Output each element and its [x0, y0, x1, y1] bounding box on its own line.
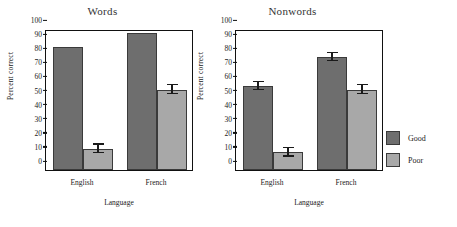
y-tick-label: 40	[225, 100, 237, 109]
error-bar-cap	[357, 84, 368, 85]
bar-good-english	[53, 47, 83, 170]
legend: Good Poor	[386, 128, 454, 172]
y-tick-label: 100	[221, 16, 236, 25]
bar-good-french	[317, 57, 347, 170]
legend-swatch-good	[386, 131, 400, 145]
y-tick-label: 50	[225, 86, 237, 95]
y-tick-label: 20	[35, 128, 47, 137]
plot-area-nonwords: 1009080706050403020100	[235, 30, 383, 171]
y-tick-label: 90	[225, 30, 237, 39]
legend-label-poor: Poor	[408, 156, 423, 165]
y-tick-label: 70	[35, 58, 47, 67]
error-bar-cap	[283, 147, 294, 148]
error-bar-cap	[283, 155, 294, 156]
y-axis-label-words: Percent correct	[6, 52, 15, 100]
y-tick-label: 30	[225, 114, 237, 123]
error-bar-cap	[327, 52, 338, 53]
y-tick-label: 50	[35, 86, 47, 95]
error-bar-cap	[167, 84, 178, 85]
bar-good-english	[243, 86, 273, 170]
error-bar-cap	[253, 81, 264, 82]
error-bar-cap	[93, 143, 104, 144]
y-tick-label: 90	[35, 30, 47, 39]
figure: Words Percent correct 100908070605040302…	[0, 0, 457, 227]
x-axis-label-words: Language	[45, 198, 193, 207]
bar-poor-french	[347, 90, 377, 170]
y-tick-label: 60	[225, 72, 237, 81]
y-tick-label: 10	[225, 142, 237, 151]
x-tick-label-french-nonwords: French	[316, 178, 376, 187]
error-bar-cap	[327, 60, 338, 61]
y-tick-label: 30	[35, 114, 47, 123]
bar-poor-french	[157, 90, 187, 170]
y-tick-label: 70	[225, 58, 237, 67]
y-tick-label: 100	[31, 16, 46, 25]
y-tick-label: 20	[225, 128, 237, 137]
legend-label-good: Good	[408, 134, 426, 143]
error-bar-cap	[167, 93, 178, 94]
bar-good-french	[127, 33, 157, 170]
plot-area-words: 1009080706050403020100	[45, 30, 193, 171]
x-tick-label-english-nonwords: English	[242, 178, 302, 187]
legend-item-poor: Poor	[386, 150, 454, 170]
x-axis-label-nonwords: Language	[235, 198, 383, 207]
error-bar-cap	[93, 152, 104, 153]
y-tick-label: 80	[35, 44, 47, 53]
error-bar-cap	[253, 89, 264, 90]
y-axis-label-nonwords: Percent correct	[196, 52, 205, 100]
x-tick-label-english-words: English	[52, 178, 112, 187]
y-tick-label: 0	[228, 157, 236, 166]
legend-item-good: Good	[386, 128, 454, 148]
y-tick-label: 10	[35, 142, 47, 151]
y-tick-label: 60	[35, 72, 47, 81]
error-bar-cap	[357, 93, 368, 94]
legend-swatch-poor	[386, 153, 400, 167]
chart-panel-words: Words Percent correct 100908070605040302…	[0, 0, 205, 227]
y-tick-label: 0	[38, 157, 46, 166]
chart-panel-nonwords: Nonwords Percent correct 100908070605040…	[190, 0, 395, 227]
y-tick-label: 80	[225, 44, 237, 53]
x-tick-label-french-words: French	[126, 178, 186, 187]
y-tick-label: 40	[35, 100, 47, 109]
